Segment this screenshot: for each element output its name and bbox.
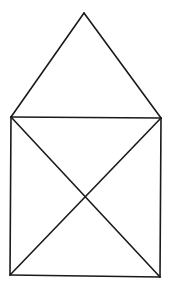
diagram-canvas: [0, 0, 174, 294]
diagonal-tr-bl: [10, 118, 161, 275]
square-bottom-edge: [10, 275, 160, 277]
house-figure: [0, 0, 174, 294]
roof-left-edge: [11, 13, 84, 117]
square-top-edge: [11, 117, 161, 118]
square-left-edge: [10, 117, 11, 275]
square-right-edge: [160, 118, 161, 277]
roof-right-edge: [84, 13, 161, 118]
figure-lines: [10, 13, 161, 277]
